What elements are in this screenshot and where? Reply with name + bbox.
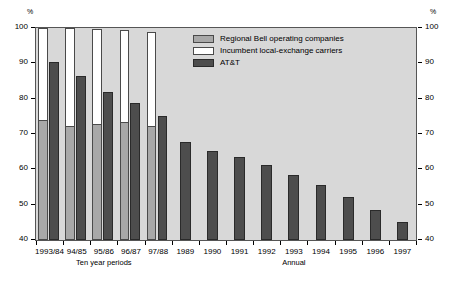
ytick-left-mark: [31, 204, 35, 205]
bar-att: [370, 210, 381, 240]
bar-att: [158, 116, 168, 240]
stacked-bar-ilec: [38, 28, 48, 240]
x-tick-mark: [389, 241, 390, 245]
legend-item-label: AT&T: [220, 58, 240, 67]
ytick-left-label: 40: [19, 235, 28, 243]
ytick-left-mark: [31, 27, 35, 28]
ytick-left-label: 50: [19, 200, 28, 208]
legend-item: Incumbent local-exchange carriers: [193, 45, 344, 56]
bar-group: [63, 28, 90, 240]
stacked-bar-ilec: [65, 28, 75, 240]
ytick-left-label: 100: [15, 23, 28, 31]
ytick-left-label: 70: [19, 129, 28, 137]
ytick-left-mark: [31, 239, 35, 240]
x-tick-mark: [36, 241, 37, 245]
x-tick-mark: [253, 241, 254, 245]
bar-att: [397, 222, 408, 240]
legend-item: AT&T: [193, 57, 344, 68]
legend-item-label: Regional Bell operating companies: [220, 34, 344, 43]
bar-group: [145, 28, 172, 240]
x-axis-label: 97/88: [148, 247, 168, 256]
x-tick-mark: [90, 241, 91, 245]
ytick-left-mark: [31, 168, 35, 169]
x-axis-label: 96/87: [121, 247, 141, 256]
x-axis-group-caption: Ten year periods: [76, 259, 131, 267]
ytick-right-label: 50: [425, 200, 434, 208]
ytick-right-mark: [418, 239, 422, 240]
stacked-bar-ilec: [120, 30, 130, 240]
x-axis-label: 1996: [366, 247, 384, 256]
ytick-right-mark: [418, 204, 422, 205]
rboc-swatch: [193, 35, 214, 43]
ytick-right-label: 90: [425, 58, 434, 66]
stacked-bar-ilec: [92, 29, 102, 240]
ytick-right-mark: [418, 133, 422, 134]
x-tick-mark: [63, 241, 64, 245]
ytick-right-label: 80: [425, 94, 434, 102]
bar-att: [76, 76, 86, 240]
bar-segment-rboc: [121, 122, 129, 239]
ytick-right-label: 60: [425, 164, 434, 172]
bar-att: [103, 92, 113, 240]
x-tick-mark: [335, 241, 336, 245]
x-tick-mark: [117, 241, 118, 245]
x-tick-mark: [199, 241, 200, 245]
y-axis-unit-right: %: [430, 8, 436, 15]
bar-att: [234, 157, 245, 240]
x-axis-label: 1989: [176, 247, 194, 256]
legend-item: Regional Bell operating companies: [193, 33, 344, 44]
ytick-left-label: 60: [19, 164, 28, 172]
x-axis-label: 1990: [204, 247, 222, 256]
stacked-bar-ilec: [147, 32, 157, 240]
x-axis-label: 1991: [231, 247, 249, 256]
bar-segment-rboc: [148, 126, 156, 239]
bar-att: [49, 62, 59, 240]
ytick-right-mark: [418, 98, 422, 99]
bar-group: [362, 28, 389, 240]
x-axis-label: 1997: [394, 247, 412, 256]
x-tick-mark: [307, 241, 308, 245]
x-axis-label: 1994: [312, 247, 330, 256]
bar-segment-rboc: [39, 120, 47, 239]
bar-group: [90, 28, 117, 240]
chart-container: % % 405060708090100 405060708090100 1993…: [0, 0, 460, 287]
att-swatch: [193, 59, 214, 67]
x-axis-label: 95/86: [94, 247, 114, 256]
bar-segment-rboc: [66, 126, 74, 239]
bar-att: [261, 165, 272, 240]
ilec-swatch: [193, 47, 214, 55]
x-axis-label: 1992: [258, 247, 276, 256]
bar-att: [316, 185, 327, 240]
bar-segment-rboc: [93, 124, 101, 239]
bar-att: [343, 197, 354, 240]
ytick-left-mark: [31, 133, 35, 134]
x-axis-label: 94/85: [67, 247, 87, 256]
bar-group: [36, 28, 63, 240]
ytick-right-label: 100: [425, 23, 438, 31]
ytick-left-label: 90: [19, 58, 28, 66]
x-tick-mark: [416, 241, 417, 245]
x-tick-mark: [362, 241, 363, 245]
bar-att: [180, 142, 191, 240]
ytick-right-label: 70: [425, 129, 434, 137]
ytick-right-label: 40: [425, 235, 434, 243]
x-axis-label: 1993: [285, 247, 303, 256]
ytick-left-mark: [31, 98, 35, 99]
ytick-left-label: 80: [19, 94, 28, 102]
x-tick-mark: [145, 241, 146, 245]
bar-att: [130, 103, 140, 240]
x-axis-label: 1993/84: [35, 247, 64, 256]
bar-group: [117, 28, 144, 240]
y-axis-unit-left: %: [27, 8, 33, 15]
x-tick-mark: [280, 241, 281, 245]
x-axis-group-caption: Annual: [282, 259, 305, 267]
legend-item-label: Incumbent local-exchange carriers: [220, 46, 342, 55]
bar-group: [389, 28, 416, 240]
ytick-right-mark: [418, 62, 422, 63]
chart-legend: Regional Bell operating companiesIncumbe…: [193, 33, 344, 69]
x-axis-label: 1995: [339, 247, 357, 256]
x-tick-mark: [172, 241, 173, 245]
ytick-right-mark: [418, 27, 422, 28]
x-tick-mark: [226, 241, 227, 245]
bar-att: [207, 151, 218, 240]
